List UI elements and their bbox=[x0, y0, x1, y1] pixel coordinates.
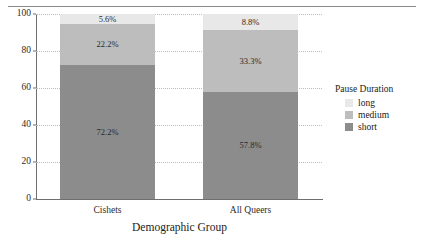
legend-swatch-short bbox=[345, 123, 353, 131]
legend-swatch-medium bbox=[345, 111, 353, 119]
figure-container: ........... 02040608010072.2%22.2%5.6%57… bbox=[0, 0, 424, 245]
bar-all-queers[interactable]: 57.8%33.3%8.8% bbox=[203, 14, 297, 199]
bar-segment-label: 33.3% bbox=[240, 57, 262, 66]
y-axis-tick-mark bbox=[33, 162, 36, 163]
x-axis-tick-label: Cishets bbox=[94, 205, 122, 215]
plot-area: 02040608010072.2%22.2%5.6%57.8%33.3%8.8% bbox=[36, 14, 322, 199]
legend-item-long[interactable]: long bbox=[345, 98, 421, 108]
legend-items: longmediumshort bbox=[335, 98, 421, 132]
x-axis-line bbox=[36, 199, 323, 200]
y-axis-tick-label: 0 bbox=[26, 194, 31, 204]
bar-segment-label: 5.6% bbox=[99, 15, 117, 24]
y-axis-tick-mark bbox=[33, 199, 36, 200]
legend-title: Pause Duration bbox=[335, 84, 421, 95]
y-axis-tick-label: 40 bbox=[22, 120, 32, 130]
y-axis-tick-label: 20 bbox=[22, 157, 32, 167]
y-axis-tick-mark bbox=[33, 51, 36, 52]
bar-segment-short[interactable]: 57.8% bbox=[203, 92, 297, 199]
page-bleed-text: ........... bbox=[240, 0, 416, 4]
bar-cishets[interactable]: 72.2%22.2%5.6% bbox=[60, 14, 154, 199]
y-axis-tick-label: 60 bbox=[22, 83, 32, 93]
legend-item-medium[interactable]: medium bbox=[345, 110, 421, 120]
legend: Pause Duration longmediumshort bbox=[335, 84, 421, 134]
legend-label: medium bbox=[358, 110, 389, 120]
y-axis-tick-label: 80 bbox=[22, 46, 32, 56]
bar-segment-label: 72.2% bbox=[97, 128, 119, 137]
legend-swatch-long bbox=[345, 99, 353, 107]
bar-segment-medium[interactable]: 33.3% bbox=[203, 30, 297, 92]
bar-segment-long[interactable]: 8.8% bbox=[203, 14, 297, 30]
legend-item-short[interactable]: short bbox=[345, 122, 421, 132]
y-axis-tick-mark bbox=[33, 125, 36, 126]
bar-segment-medium[interactable]: 22.2% bbox=[60, 24, 154, 65]
bar-segment-long[interactable]: 5.6% bbox=[60, 14, 154, 24]
y-axis-tick-mark bbox=[33, 88, 36, 89]
page-separator-rule bbox=[8, 6, 416, 7]
legend-label: long bbox=[358, 98, 375, 108]
x-axis-tick-label: All Queers bbox=[230, 205, 271, 215]
bar-segment-short[interactable]: 72.2% bbox=[60, 65, 154, 199]
bar-segment-label: 8.8% bbox=[242, 18, 260, 27]
bar-segment-label: 57.8% bbox=[240, 141, 262, 150]
x-axis-title: Demographic Group bbox=[36, 221, 323, 233]
y-axis-tick-mark bbox=[33, 14, 36, 15]
bar-segment-label: 22.2% bbox=[97, 40, 119, 49]
y-axis-tick-label: 100 bbox=[17, 9, 31, 19]
legend-label: short bbox=[358, 122, 377, 132]
